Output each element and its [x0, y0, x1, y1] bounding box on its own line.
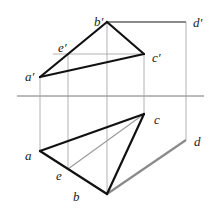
label-d-prime: d′ — [193, 15, 203, 30]
label-c-prime: c′ — [152, 50, 161, 65]
label-b-prime: b′ — [94, 14, 104, 29]
edge-a-b — [40, 151, 107, 194]
label-c: c — [154, 112, 160, 127]
label-a-prime: a′ — [25, 69, 35, 84]
label-d: d — [194, 134, 201, 149]
edge-b-prime-c-prime — [107, 22, 144, 54]
projection-diagram: a′ b′ c′ d′ e′ a b c d e — [0, 0, 217, 213]
triangle-front-view — [40, 22, 144, 77]
label-a: a — [25, 148, 32, 163]
label-e-prime: e′ — [58, 40, 67, 55]
label-e: e — [56, 168, 62, 183]
label-b: b — [73, 189, 80, 204]
edge-e-c — [68, 114, 144, 169]
